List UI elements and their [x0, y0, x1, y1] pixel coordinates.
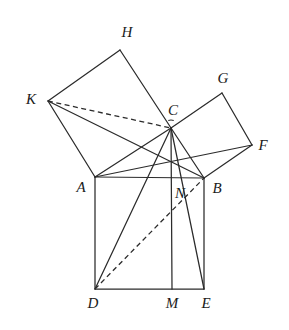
vertex-label-D: D [88, 296, 99, 311]
vertex-label-K: K [26, 92, 36, 107]
segment-G-F [222, 93, 252, 145]
geometry-figure: HGKCFANBDME [0, 0, 289, 330]
vertex-label-M: M [166, 296, 179, 311]
vertex-label-N: N [175, 186, 185, 201]
segment-C-M [171, 128, 172, 289]
vertex-label-C: C [168, 103, 178, 118]
segment-A-B [95, 177, 204, 178]
figure-canvas [0, 0, 289, 330]
vertex-label-F: F [258, 138, 267, 153]
solid-edges-group [48, 50, 252, 289]
vertex-label-A: A [76, 180, 85, 195]
vertex-label-E: E [201, 296, 210, 311]
segment-K-C-dashed [48, 101, 171, 128]
vertex-label-B: B [212, 181, 221, 196]
segment-H-C [120, 50, 171, 128]
segment-C-G [171, 93, 222, 128]
vertex-label-H: H [122, 25, 133, 40]
segment-D-B-dashed [95, 178, 204, 289]
segment-K-H [48, 50, 120, 101]
vertex-label-G: G [218, 71, 229, 86]
